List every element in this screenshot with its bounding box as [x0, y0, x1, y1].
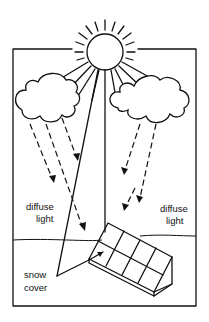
svg-text:diffuse: diffuse [160, 203, 188, 214]
svg-text:cover: cover [24, 282, 47, 293]
cloud-left [16, 73, 80, 121]
diffuse-arrows-right [121, 124, 156, 211]
label-diffuse-left: diffuse light [26, 201, 54, 224]
svg-text:light: light [36, 213, 54, 224]
svg-text:light: light [166, 215, 184, 226]
svg-text:diffuse: diffuse [26, 201, 54, 212]
label-snow-cover: snow cover [24, 269, 47, 293]
svg-text:snow: snow [24, 269, 46, 280]
solar-panel [89, 223, 172, 296]
label-diffuse-right: diffuse light [160, 203, 188, 226]
horizon-line [13, 235, 196, 240]
solar-light-diagram: diffuse light diffuse light snow cover [0, 0, 209, 322]
